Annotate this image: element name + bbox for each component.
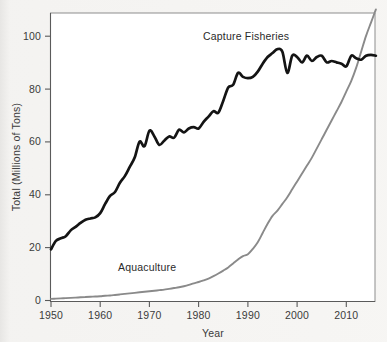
x-tick-label-1990: 1990 bbox=[236, 309, 260, 321]
x-tick-label-1980: 1980 bbox=[187, 309, 211, 321]
plot-area-background bbox=[50, 13, 375, 302]
aquaculture-label: Aquaculture bbox=[118, 261, 176, 273]
y-tick-label-0: 0 bbox=[35, 294, 41, 306]
y-tick-label-20: 20 bbox=[29, 241, 41, 253]
x-tick-label-2010: 2010 bbox=[334, 309, 358, 321]
y-tick-label-40: 40 bbox=[29, 188, 41, 200]
y-tick-label-100: 100 bbox=[23, 30, 41, 42]
x-axis-tick-labels: 1950 1960 1970 1980 1990 2000 2010 bbox=[39, 309, 358, 321]
x-axis-ticks bbox=[51, 302, 346, 307]
x-axis-title: Year bbox=[202, 327, 224, 339]
y-axis-title: Total (Millions of Tons) bbox=[10, 103, 22, 211]
y-tick-label-60: 60 bbox=[29, 135, 41, 147]
fisheries-aquaculture-line-chart: 0 20 40 60 80 100 1950 1960 1970 1980 19… bbox=[0, 0, 387, 342]
y-axis-tick-labels: 0 20 40 60 80 100 bbox=[23, 30, 41, 306]
x-tick-label-1970: 1970 bbox=[137, 309, 161, 321]
capture-fisheries-label: Capture Fisheries bbox=[203, 30, 289, 42]
x-tick-label-1950: 1950 bbox=[39, 309, 63, 321]
chart-figure: 0 20 40 60 80 100 1950 1960 1970 1980 19… bbox=[0, 0, 387, 342]
y-axis-ticks bbox=[45, 36, 50, 300]
y-tick-label-80: 80 bbox=[29, 83, 41, 95]
x-tick-label-2000: 2000 bbox=[285, 309, 309, 321]
x-tick-label-1960: 1960 bbox=[88, 309, 112, 321]
